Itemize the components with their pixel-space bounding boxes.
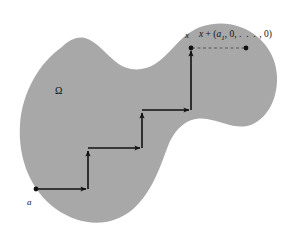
label-shifted-point: x + (a1, 0, . . . , 0) bbox=[199, 30, 272, 42]
domain-region-omega bbox=[20, 23, 277, 222]
label-endpoint-x: x bbox=[185, 31, 189, 40]
figure-canvas: Ω a x x + (a1, 0, . . . , 0) bbox=[0, 0, 289, 240]
point-dot-x bbox=[189, 46, 194, 51]
point-dot-a bbox=[34, 187, 39, 192]
label-omega: Ω bbox=[55, 86, 62, 96]
label-start-point-a: a bbox=[27, 198, 32, 207]
shift-label-rest: , 0, bbox=[225, 29, 239, 39]
point-dot-x-shifted bbox=[244, 46, 249, 51]
shift-label-plus: + ( bbox=[203, 29, 216, 39]
shift-label-ellipsis: . . . bbox=[239, 29, 257, 39]
shift-label-tail: , 0) bbox=[257, 29, 272, 39]
